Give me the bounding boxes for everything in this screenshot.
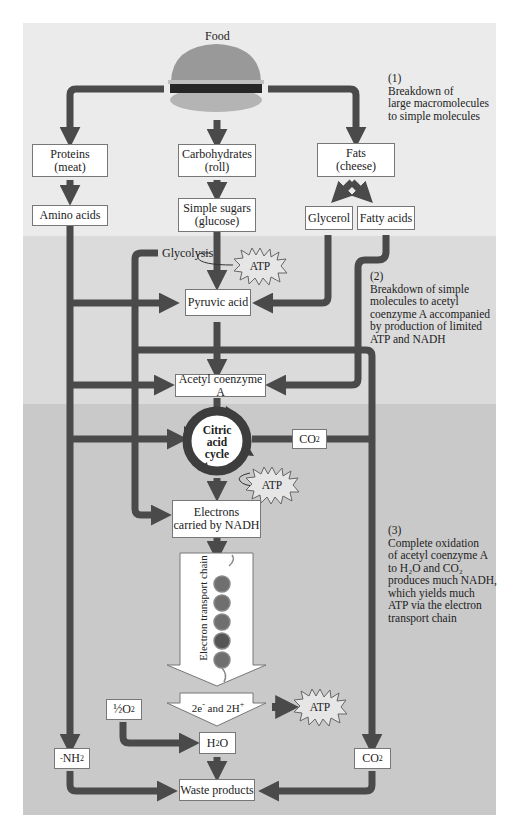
water-box: H2O	[199, 732, 236, 754]
electron-transport-chain-label: Electron transport chain	[197, 548, 209, 668]
co2-waste-box: CO2	[354, 748, 391, 769]
electron-proton-label: 2e- and 2H+	[188, 700, 248, 714]
amino-acids-box: Amino acids	[32, 205, 108, 226]
atp-glycolysis: ATP	[232, 246, 288, 286]
stage-3-note: (3) Complete oxidation of acetyl coenzym…	[388, 524, 497, 624]
waste-products-box: Waste products	[179, 779, 255, 801]
co2-cycle-box: CO2	[292, 429, 327, 449]
citric-acid-cycle-label: Citric acid cycle	[192, 424, 242, 460]
fatty-acids-box: Fatty acids	[357, 206, 415, 230]
glycolysis-label: Glycolysis	[162, 246, 213, 261]
hamburger-icon	[168, 44, 264, 112]
stage-2-note: (2) Breakdown of simple molecules to ace…	[370, 270, 490, 345]
electrons-nadh-box: Electrons carried by NADH	[172, 500, 261, 538]
pyruvic-acid-box: Pyruvic acid	[185, 289, 251, 316]
proteins-box: Proteins (meat)	[32, 144, 108, 177]
amine-group-box: -NH2	[54, 748, 90, 769]
atp-citric-cycle: ATP	[244, 465, 300, 505]
pathway-arrows	[0, 0, 517, 826]
glycerol-box: Glycerol	[305, 206, 353, 230]
fats-box: Fats (cheese)	[317, 143, 395, 177]
stage-1-note: (1) Breakdown of large macromolecules to…	[388, 72, 489, 122]
carbohydrates-box: Carbohydrates (roll)	[178, 144, 256, 177]
acetyl-coenzyme-a-box: Acetyl coenzyme A	[175, 374, 266, 397]
atp-electron-transport: ATP	[292, 687, 348, 727]
simple-sugars-box: Simple sugars (glucose)	[178, 198, 256, 232]
food-label: Food	[205, 29, 230, 44]
half-oxygen-box: ½O2	[106, 699, 142, 720]
